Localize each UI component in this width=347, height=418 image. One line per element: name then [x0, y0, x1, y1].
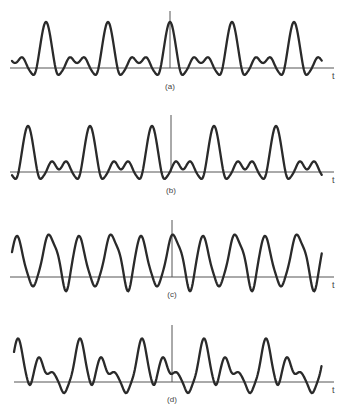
panel-caption: (a) [165, 82, 175, 91]
waveform-b [12, 126, 322, 179]
waveform-c [12, 235, 322, 292]
waveform-d [14, 338, 322, 393]
panel-c: t(c) [10, 220, 335, 299]
time-axis-label: t [332, 385, 335, 395]
waveform-a [12, 22, 322, 75]
panel-caption: (b) [166, 186, 176, 195]
panel-caption: (d) [167, 395, 177, 404]
panel-d: t(d) [14, 325, 335, 404]
time-axis-label: t [332, 175, 335, 185]
waveform-figure: t(a)t(b)t(c)t(d) [0, 0, 347, 418]
panel-caption: (c) [167, 290, 177, 299]
time-axis-label: t [332, 71, 335, 81]
panel-a: t(a) [10, 11, 335, 91]
time-axis-label: t [332, 280, 335, 290]
panel-b: t(b) [10, 115, 335, 195]
